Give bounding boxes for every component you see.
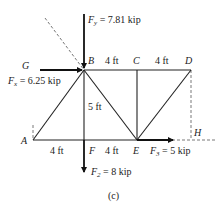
node-label-B: B	[88, 55, 94, 66]
force-label-Fy: Fy = 7.81 kip	[87, 14, 141, 27]
node-label-A: A	[20, 135, 28, 146]
dimension-BF: 5 ft	[88, 101, 102, 112]
dimension-FE: 4 ft	[105, 145, 119, 156]
force-label-Fx: Fx = 6.25 kip	[7, 75, 61, 88]
force-label-F3: F3 = 5 kip	[149, 145, 191, 158]
truss-diagram: B C D G A F E H 4 ft 4 ft 5 ft 4 ft 4 ft…	[0, 0, 223, 205]
dashed-line-GB	[45, 18, 84, 70]
node-label-G: G	[22, 60, 29, 71]
dimension-AF: 4 ft	[50, 145, 64, 156]
node-label-H: H	[193, 127, 202, 138]
node-label-C: C	[133, 55, 140, 66]
node-label-F: F	[88, 145, 96, 156]
node-label-E: E	[132, 145, 139, 156]
figure-caption: (c)	[108, 190, 119, 202]
force-label-F2: F2 = 8 kip	[90, 166, 132, 179]
dimension-CD: 4 ft	[155, 55, 169, 66]
node-label-D: D	[184, 55, 193, 66]
dimension-BC: 4 ft	[105, 55, 119, 66]
member-DE	[137, 70, 191, 140]
